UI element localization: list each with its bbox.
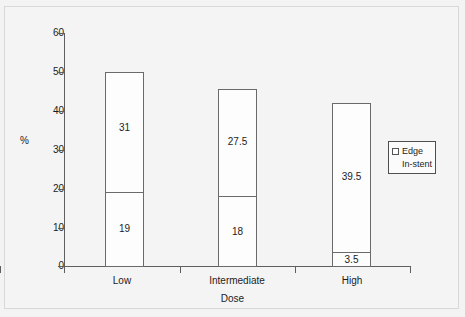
x-category-label-intermediate: Intermediate	[199, 275, 275, 286]
plot-area: 60 50 40 30 20 10 0 %	[0, 0, 465, 317]
bar-high-label-edge: 39.5	[332, 172, 371, 182]
legend-label-in-stent: In-stent	[402, 160, 432, 169]
legend: Edge In-stent	[388, 141, 436, 174]
legend-entry-in-stent: In-stent	[392, 158, 432, 171]
chart-figure: 60 50 40 30 20 10 0 %	[0, 0, 465, 317]
x-tick-mark-1	[0, 266, 1, 273]
x-axis-title: Dose	[0, 293, 465, 304]
x-tick-mark-sep-1	[180, 266, 181, 273]
x-tick-mark-end	[410, 266, 411, 273]
legend-entry-edge: Edge	[392, 145, 432, 158]
y-tick-mark-20	[58, 189, 64, 190]
y-axis-line	[64, 33, 65, 267]
y-tick-mark-60	[58, 33, 64, 34]
bar-low-label-edge: 31	[105, 123, 144, 133]
bar-high-label-in-stent: 3.5	[332, 255, 371, 265]
blank-swatch-icon	[392, 161, 399, 168]
legend-label-edge: Edge	[402, 147, 423, 156]
x-category-label-low: Low	[84, 275, 160, 286]
bar-intermediate-label-edge: 27.5	[218, 137, 257, 147]
y-axis-title: %	[20, 135, 29, 146]
x-tick-mark-sep-2	[295, 266, 296, 273]
y-tick-mark-30	[58, 150, 64, 151]
y-tick-mark-10	[58, 228, 64, 229]
x-category-label-high: High	[314, 275, 390, 286]
y-tick-mark-50	[58, 72, 64, 73]
y-tick-mark-40	[58, 111, 64, 112]
open-square-icon	[392, 148, 399, 155]
bar-low-label-in-stent: 19	[105, 224, 144, 234]
bar-intermediate-label-in-stent: 18	[218, 227, 257, 237]
x-tick-mark-start	[64, 266, 65, 273]
